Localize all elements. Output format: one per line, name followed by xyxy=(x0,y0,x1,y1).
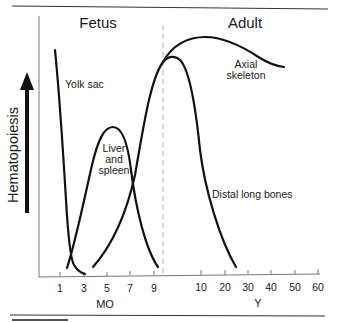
label-axial-line2: skeleton xyxy=(226,69,265,81)
x-axis xyxy=(39,274,320,277)
x-unit-months: MO xyxy=(96,298,114,310)
top-rule xyxy=(12,6,328,9)
fetus-label: Fetus xyxy=(79,14,117,31)
tick-label-9mo: 9 xyxy=(151,282,157,294)
tick-label-60y: 60 xyxy=(312,281,324,293)
tick-label-7mo: 7 xyxy=(127,282,133,294)
hematopoiesis-arrow-icon xyxy=(20,72,34,213)
label-liver-line3: spleen xyxy=(99,164,130,176)
tick-label-20y: 20 xyxy=(219,281,231,293)
chart-canvas: 1 3 5 7 9 10 20 30 40 50 60 MO Y Fetus A… xyxy=(0,0,337,322)
tick-label-40y: 40 xyxy=(265,281,277,293)
adult-label: Adult xyxy=(228,14,263,31)
bottom-rule xyxy=(10,315,325,316)
label-yolk-sac: Yolk sac xyxy=(65,78,104,90)
tick-label-50y: 50 xyxy=(289,281,301,293)
hematopoiesis-chart: 1 3 5 7 9 10 20 30 40 50 60 MO Y Fetus A… xyxy=(0,0,337,322)
tick-label-3mo: 3 xyxy=(81,282,87,294)
tick-label-30y: 30 xyxy=(242,281,254,293)
label-distal-long-bones: Distal long bones xyxy=(212,188,293,200)
tick-label-10y: 10 xyxy=(195,281,207,293)
y-axis-label: Hematopoiesis xyxy=(5,107,21,203)
tick-label-5mo: 5 xyxy=(104,282,110,294)
x-ticks xyxy=(60,269,318,276)
x-unit-years: Y xyxy=(254,297,262,309)
tick-label-1mo: 1 xyxy=(57,282,63,294)
